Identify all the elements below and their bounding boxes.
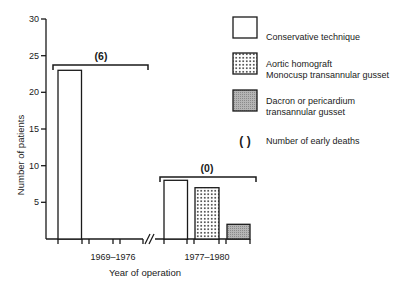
y-tick-labels: 30 25 20 15 10 5 bbox=[29, 14, 39, 207]
x-category-1969-1976: 1969–1976 bbox=[90, 252, 135, 262]
legend-label-conservative: Conservative technique bbox=[266, 32, 360, 42]
legend-swatch-dacron bbox=[233, 90, 257, 111]
y-tick-25: 25 bbox=[29, 51, 39, 61]
legend-paren-symbol: ( ) bbox=[239, 134, 250, 148]
y-axis bbox=[41, 19, 46, 239]
bar-conservative-1977-1980 bbox=[164, 180, 188, 239]
y-tick-10: 10 bbox=[29, 161, 39, 171]
legend-label-aortic-homograft-line2: Monocusp transannular gusset bbox=[266, 70, 390, 80]
bar-conservative-1969-1976 bbox=[58, 70, 82, 239]
y-axis-label: Number of patients bbox=[15, 115, 26, 196]
bar-aortic-homograft-1977-1980 bbox=[195, 188, 219, 239]
x-category-1977-1980: 1977–1980 bbox=[184, 252, 229, 262]
legend-label-dacron-line1: Dacron or pericardium bbox=[266, 96, 355, 106]
chart: 30 25 20 15 10 5 Number of patients 1969… bbox=[0, 0, 404, 288]
legend: Conservative technique Aortic homograft … bbox=[233, 17, 390, 148]
legend-label-dacron-line2: transannular gusset bbox=[266, 107, 346, 117]
early-deaths-1977-1980: (0) bbox=[201, 162, 214, 174]
y-tick-20: 20 bbox=[29, 87, 39, 97]
bar-dacron-1977-1980 bbox=[227, 224, 250, 239]
legend-label-aortic-homograft-line1: Aortic homograft bbox=[266, 59, 333, 69]
y-tick-30: 30 bbox=[29, 14, 39, 24]
x-axis-label: Year of operation bbox=[109, 267, 181, 278]
y-tick-15: 15 bbox=[29, 124, 39, 134]
legend-label-early-deaths: Number of early deaths bbox=[266, 136, 360, 146]
legend-swatch-aortic-homograft bbox=[233, 53, 257, 74]
bracket-1969-1976 bbox=[53, 65, 148, 70]
y-tick-5: 5 bbox=[34, 197, 39, 207]
bars bbox=[58, 70, 250, 239]
early-deaths-1969-1976: (6) bbox=[95, 50, 108, 62]
legend-swatch-conservative bbox=[233, 17, 257, 38]
